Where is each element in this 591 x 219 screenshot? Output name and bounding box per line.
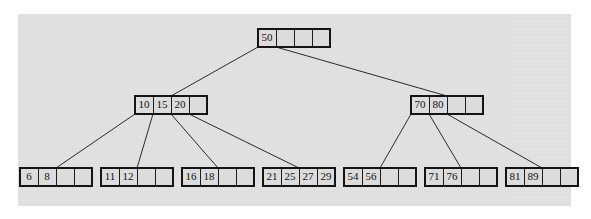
- btree-edge: [380, 114, 411, 168]
- btree-edge: [171, 47, 258, 96]
- btree-empty-cell[interactable]: [189, 96, 207, 114]
- btree-node[interactable]: 101520: [135, 96, 207, 114]
- btree-empty-cell[interactable]: [218, 168, 236, 186]
- btree-edge: [171, 114, 218, 168]
- btree-node[interactable]: 1112: [101, 168, 173, 186]
- btree-key-label: 21: [267, 170, 278, 182]
- btree-empty-cell[interactable]: [560, 168, 578, 186]
- btree-node[interactable]: 1618: [182, 168, 254, 186]
- btree-key-label: 89: [528, 170, 540, 182]
- btree-key-label: 20: [175, 98, 187, 110]
- btree-canvas: 5010152070806811121618212527295456717681…: [0, 0, 591, 219]
- btree-node[interactable]: 7176: [425, 168, 497, 186]
- btree-key-label: 29: [321, 170, 333, 182]
- btree-key-label: 50: [262, 31, 274, 43]
- btree-empty-cell[interactable]: [398, 168, 416, 186]
- btree-key-label: 8: [44, 170, 50, 182]
- btree-node[interactable]: 21252729: [263, 168, 335, 186]
- btree-key-label: 25: [285, 170, 297, 182]
- btree-empty-cell[interactable]: [380, 168, 398, 186]
- btree-empty-cell[interactable]: [461, 168, 479, 186]
- btree-key-label: 56: [366, 170, 378, 182]
- btree-edge: [429, 114, 461, 168]
- btree-edge: [189, 114, 299, 168]
- btree-edge: [137, 114, 153, 168]
- btree-empty-cell[interactable]: [479, 168, 497, 186]
- btree-node[interactable]: 5456: [344, 168, 416, 186]
- btree-empty-cell[interactable]: [312, 29, 330, 47]
- btree-node[interactable]: 50: [258, 29, 330, 47]
- btree-edge: [276, 47, 447, 96]
- btree-key-label: 71: [429, 170, 440, 182]
- btree-edge: [56, 114, 135, 168]
- btree-empty-cell[interactable]: [56, 168, 74, 186]
- btree-edge: [447, 114, 542, 168]
- btree-empty-cell[interactable]: [236, 168, 254, 186]
- btree-empty-cell[interactable]: [137, 168, 155, 186]
- btree-node[interactable]: 68: [20, 168, 92, 186]
- btree-node[interactable]: 7080: [411, 96, 483, 114]
- btree-key-label: 10: [139, 98, 151, 110]
- btree-empty-cell[interactable]: [542, 168, 560, 186]
- btree-key-label: 18: [204, 170, 216, 182]
- btree-nodes: 5010152070806811121618212527295456717681…: [20, 29, 578, 186]
- btree-empty-cell[interactable]: [465, 96, 483, 114]
- btree-key-label: 12: [123, 170, 134, 182]
- btree-node[interactable]: 8189: [506, 168, 578, 186]
- btree-figure: 5010152070806811121618212527295456717681…: [0, 0, 591, 219]
- btree-empty-cell[interactable]: [276, 29, 294, 47]
- btree-key-label: 16: [186, 170, 198, 182]
- btree-key-label: 81: [510, 170, 521, 182]
- btree-key-label: 11: [105, 170, 116, 182]
- btree-key-label: 54: [348, 170, 360, 182]
- btree-key-label: 80: [433, 98, 445, 110]
- btree-key-label: 6: [26, 170, 32, 182]
- btree-key-label: 27: [303, 170, 315, 182]
- btree-empty-cell[interactable]: [74, 168, 92, 186]
- btree-empty-cell[interactable]: [294, 29, 312, 47]
- btree-empty-cell[interactable]: [155, 168, 173, 186]
- btree-empty-cell[interactable]: [447, 96, 465, 114]
- btree-key-label: 70: [415, 98, 427, 110]
- btree-key-label: 15: [157, 98, 169, 110]
- btree-key-label: 76: [447, 170, 459, 182]
